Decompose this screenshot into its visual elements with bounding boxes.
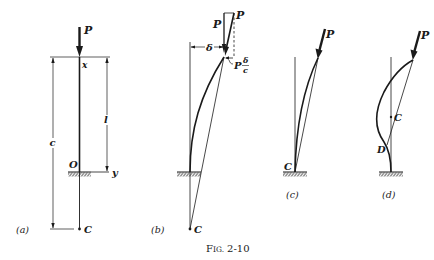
horizontal-force-arrow-icon xyxy=(225,56,233,64)
panel-a: P C y O x c xyxy=(16,24,119,235)
dimension-l-label: l xyxy=(104,114,108,125)
load-label-p: P xyxy=(420,29,430,42)
deflected-column xyxy=(190,57,224,172)
fixed-support-icon xyxy=(177,172,201,177)
caption-smallcaps: IG. xyxy=(213,245,224,254)
load-arrow-icon xyxy=(316,29,326,59)
point-c-label: C xyxy=(284,161,292,172)
figure-caption: FIG.2-10 xyxy=(206,243,250,254)
load-label-p: P xyxy=(83,24,93,37)
load-label-p: P xyxy=(325,28,335,41)
panel-d-label: (d) xyxy=(382,189,396,200)
inclined-load-arrow-icon xyxy=(225,13,234,56)
panel-c-label: (c) xyxy=(286,189,299,200)
load-arrow-icon xyxy=(411,31,421,60)
point-c-dot xyxy=(78,228,81,231)
point-d-label: D xyxy=(376,144,386,155)
inclined-load-label: P xyxy=(235,9,245,22)
axis-y-label: y xyxy=(111,167,119,178)
dimension-c-label: c xyxy=(50,137,56,148)
fixed-support-icon xyxy=(379,172,403,177)
vertical-load-label: P xyxy=(212,18,222,31)
axis-x-label: x xyxy=(81,60,88,70)
panel-a-label: (a) xyxy=(16,224,29,235)
point-c-dot xyxy=(390,116,392,118)
figure-2-10: P C y O x c xyxy=(0,0,434,260)
panel-d: P C D (d) xyxy=(376,29,430,200)
panel-b-label: (b) xyxy=(151,224,165,235)
caption-prefix: F xyxy=(206,243,213,254)
point-c-label: C xyxy=(84,224,92,235)
origin-label: O xyxy=(69,159,78,170)
fixed-support-icon xyxy=(68,172,91,177)
horizontal-force-denominator: c xyxy=(243,65,248,75)
point-c-label: C xyxy=(394,112,402,123)
panel-c: P C (c) xyxy=(283,28,335,200)
chord-line xyxy=(190,57,224,229)
load-arrow-icon xyxy=(76,27,83,57)
point-c-dot xyxy=(189,228,192,231)
fixed-support-icon xyxy=(283,172,307,177)
caption-number: 2-10 xyxy=(227,243,249,254)
panel-b: C P P P δ c xyxy=(151,9,249,235)
horizontal-force-numerator: δ xyxy=(242,55,249,65)
horizontal-force-p: P xyxy=(233,60,242,71)
point-c-label: C xyxy=(194,224,202,235)
deflection-label: δ xyxy=(205,42,213,53)
chord-line xyxy=(295,58,318,172)
